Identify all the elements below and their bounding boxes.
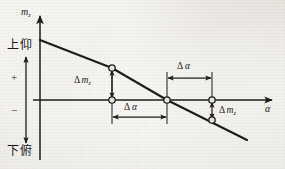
marker-axis-left bbox=[109, 97, 115, 103]
pitch-up-label: 上仰 bbox=[7, 39, 33, 51]
delta-mz-left-label: Δmz bbox=[74, 76, 91, 86]
x-axis-label: α bbox=[265, 104, 270, 114]
delta-alpha-lower-label: Δα bbox=[124, 103, 137, 113]
delta-mz-right-label: Δmz bbox=[219, 106, 236, 116]
alpha-symbol: α bbox=[132, 102, 137, 112]
marker-axis-center bbox=[164, 97, 170, 103]
alpha-symbol: α bbox=[185, 61, 190, 71]
delta-symbol: Δ bbox=[219, 105, 225, 115]
negative-sign-label: − bbox=[11, 105, 17, 116]
axis-group bbox=[33, 16, 272, 160]
moment-curve bbox=[40, 40, 247, 140]
marker-lower-right bbox=[209, 117, 215, 123]
delta-alpha-upper-label: Δα bbox=[177, 62, 190, 72]
y-axis-subscript: z bbox=[28, 12, 30, 18]
figure-canvas: mz α 上仰 + − 下俯 Δmz Δα Δα Δmz bbox=[0, 0, 285, 169]
positive-sign-label: + bbox=[11, 72, 17, 83]
data-point-markers bbox=[109, 65, 215, 123]
delta-symbol: Δ bbox=[177, 61, 183, 71]
diagram-vector-layer bbox=[0, 0, 285, 169]
m-subscript: z bbox=[233, 110, 235, 116]
y-axis-label: mz bbox=[21, 7, 31, 18]
delta-symbol: Δ bbox=[74, 75, 80, 85]
marker-axis-right bbox=[209, 97, 215, 103]
pitch-down-label: 下俯 bbox=[7, 145, 33, 157]
delta-symbol: Δ bbox=[124, 102, 130, 112]
m-subscript: z bbox=[88, 80, 90, 86]
marker-upper-left bbox=[109, 65, 115, 71]
